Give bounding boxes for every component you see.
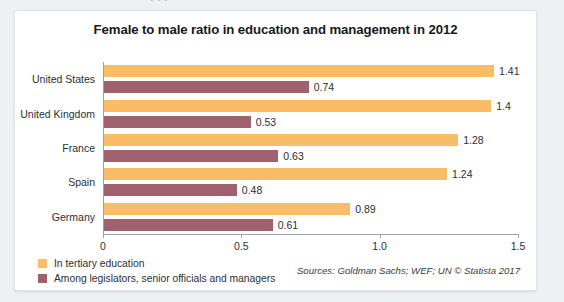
bar-edu[interactable] — [104, 168, 447, 180]
legend-label-education: In tertiary education — [54, 258, 144, 269]
plot-area: United States1.410.74United Kingdom1.40.… — [103, 62, 519, 234]
legend-item-education[interactable]: In tertiary education — [38, 256, 275, 271]
x-axis-tick-label: 0.5 — [234, 240, 249, 252]
bar-mgmt[interactable] — [104, 150, 278, 162]
bar-value-label: 0.89 — [355, 203, 375, 215]
bar-edu[interactable] — [104, 100, 491, 112]
x-axis-tick — [380, 234, 381, 238]
bar-edu[interactable] — [104, 203, 350, 215]
bar-edu[interactable] — [104, 134, 458, 146]
bar-value-label: 0.63 — [283, 150, 303, 162]
category-label: United Kingdom — [14, 108, 95, 120]
legend-label-management: Among legislators, senior officials and … — [54, 273, 275, 284]
bar-group: Spain1.240.48 — [104, 168, 519, 196]
chart-title: Female to male ratio in education and ma… — [15, 22, 536, 37]
category-label: Germany — [14, 211, 95, 223]
bar-value-label: 1.24 — [452, 168, 472, 180]
category-label: France — [14, 142, 95, 154]
bar-group: Germany0.890.61 — [104, 203, 519, 231]
category-label: Spain — [14, 176, 95, 188]
chart-legend: In tertiary education Among legislators,… — [38, 256, 275, 286]
bar-mgmt[interactable] — [104, 81, 309, 93]
chart-card: Female to male ratio in education and ma… — [14, 10, 537, 291]
bar-value-label: 0.53 — [256, 116, 276, 128]
bar-edu[interactable] — [104, 65, 494, 77]
x-axis-tick — [518, 234, 519, 238]
bar-value-label: 0.74 — [314, 81, 334, 93]
bar-value-label: 0.61 — [278, 219, 298, 231]
bar-value-label: 0.48 — [242, 184, 262, 196]
x-axis-tick-label: 0 — [100, 240, 106, 252]
x-axis-tick — [241, 234, 242, 238]
category-label: United States — [14, 73, 95, 85]
bar-group: United Kingdom1.40.53 — [104, 100, 519, 128]
x-axis-line — [103, 234, 519, 235]
clipped-page-text-line: • • • — [150, 0, 168, 5]
legend-swatch-education — [38, 259, 47, 268]
source-attribution: Sources: Goldman Sachs; WEF; UN © Statis… — [297, 265, 520, 276]
clipped-page-text: • • • — [0, 0, 564, 8]
bar-mgmt[interactable] — [104, 184, 237, 196]
legend-item-management[interactable]: Among legislators, senior officials and … — [38, 271, 275, 286]
bar-value-label: 1.4 — [496, 100, 511, 112]
legend-swatch-management — [38, 274, 47, 283]
bar-mgmt[interactable] — [104, 116, 251, 128]
x-axis-tick-label: 1.5 — [511, 240, 526, 252]
x-axis-tick — [103, 234, 104, 238]
bar-mgmt[interactable] — [104, 219, 273, 231]
bar-group: France1.280.63 — [104, 134, 519, 162]
bar-value-label: 1.41 — [499, 65, 519, 77]
bar-group: United States1.410.74 — [104, 65, 519, 93]
x-axis-tick-label: 1.0 — [372, 240, 387, 252]
bar-value-label: 1.28 — [463, 134, 483, 146]
